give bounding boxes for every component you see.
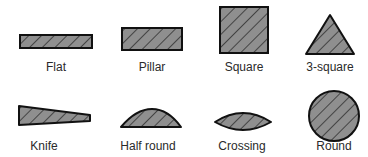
label-knife: Knife bbox=[4, 139, 84, 153]
label-flat: Flat bbox=[16, 60, 96, 74]
label-half-round: Half round bbox=[108, 139, 188, 153]
label-three-square: 3-square bbox=[290, 60, 368, 74]
half-round-icon bbox=[121, 109, 181, 127]
triangle-icon bbox=[306, 15, 354, 54]
flat-rectangle-icon bbox=[20, 35, 92, 48]
label-crossing: Crossing bbox=[202, 139, 282, 153]
crossing-lens-icon bbox=[215, 113, 271, 130]
label-round: Round bbox=[294, 139, 368, 153]
square-icon bbox=[220, 7, 268, 53]
round-circle-icon bbox=[309, 91, 359, 141]
label-square: Square bbox=[204, 60, 284, 74]
file-shapes-diagram bbox=[0, 0, 368, 157]
knife-wedge-icon bbox=[19, 106, 90, 125]
pillar-rectangle-icon bbox=[122, 28, 182, 50]
label-pillar: Pillar bbox=[112, 60, 192, 74]
